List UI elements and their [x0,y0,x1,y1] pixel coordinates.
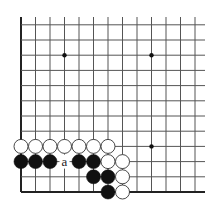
white-stone-icon [87,139,101,153]
black-stone-icon [87,155,101,169]
white-stone-icon [58,139,72,153]
black-stone-icon [101,185,115,199]
black-stone-icon [43,155,57,169]
white-stone-icon [116,155,130,169]
white-stone-icon [116,170,130,184]
white-stone-icon [14,139,28,153]
white-stone-icon [101,155,115,169]
black-stone-icon [29,155,43,169]
point-labels: a [60,154,70,169]
star-point-icon [62,53,66,57]
point-label: a [62,154,68,169]
go-board-diagram: a [0,0,216,208]
black-stone-icon [72,155,86,169]
black-stone-icon [14,155,28,169]
stones [14,139,130,199]
white-stone-icon [101,139,115,153]
white-stone-icon [29,139,43,153]
star-point-icon [149,144,153,148]
black-stone-icon [101,170,115,184]
white-stone-icon [72,139,86,153]
star-point-icon [149,53,153,57]
white-stone-icon [116,185,130,199]
white-stone-icon [43,139,57,153]
black-stone-icon [87,170,101,184]
